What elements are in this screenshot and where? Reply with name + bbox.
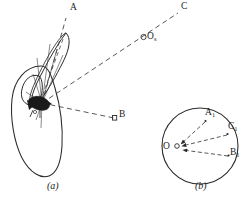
panel-label-a: (a)	[47, 181, 59, 191]
label-point-a-Os: Os	[147, 32, 156, 42]
ray-to-C	[42, 13, 178, 103]
ray-to-B	[42, 103, 114, 118]
label-A1-sub: 1	[212, 111, 215, 118]
label-point-a-B: B	[119, 110, 125, 120]
label-point-a-A: A	[70, 3, 77, 13]
convergence-cluster	[27, 96, 52, 118]
marker-O-center	[175, 144, 180, 149]
label-Os-base: O	[147, 31, 154, 41]
arrow-B1-to-O	[183, 150, 228, 156]
figure-root: A B C Os A1 C1 B1 O (a) (b)	[0, 0, 249, 208]
marker-C1	[226, 133, 228, 135]
figure-canvas	[0, 0, 249, 208]
leaf-ellipse-outline	[32, 33, 69, 103]
label-B1-sub: 1	[236, 151, 239, 158]
label-point-b-A1: A1	[205, 108, 215, 118]
cluster-fan-lines	[26, 44, 63, 128]
label-Os-sub: s	[154, 35, 157, 42]
label-point-b-O: O	[163, 142, 170, 152]
panel-b-circle	[162, 108, 238, 184]
label-point-b-C1: C1	[228, 122, 238, 132]
label-C1-sub: 1	[234, 125, 237, 132]
panel-b-graphics	[162, 108, 238, 184]
label-point-a-C: C	[181, 2, 187, 12]
leaf-ellipse-inner-outline	[30, 33, 66, 104]
panel-label-b: (b)	[195, 181, 207, 191]
arrow-A1-to-O	[181, 122, 205, 144]
label-point-b-B1: B1	[230, 148, 240, 158]
label-A1-base: A	[205, 107, 212, 117]
marker-A1	[204, 120, 206, 122]
